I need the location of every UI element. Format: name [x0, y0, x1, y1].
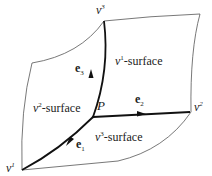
vertex-label-v2: v2 [194, 101, 203, 113]
basis-label-e2: e2 [135, 93, 144, 105]
vertex-label-v3: v3 [96, 4, 105, 16]
point-p-marker [92, 116, 94, 118]
surface-drawing [0, 0, 212, 176]
e2-arrow-icon [137, 111, 146, 117]
vertex-label-v1: v1 [6, 162, 15, 174]
v1-surface-top-edge [104, 14, 200, 21]
e3-arrow-icon [89, 69, 94, 78]
basis-label-e1: e1 [76, 138, 85, 150]
v2-surface-left-edge [22, 63, 32, 170]
v1-surface-right-edge [191, 14, 200, 112]
surface-label-v1: v1-surface [115, 55, 162, 67]
point-label-p: P [97, 99, 105, 112]
basis-label-e3: e3 [75, 62, 84, 74]
surface-label-v3: v3-surface [95, 131, 142, 143]
diagram-canvas: v3 v2 v1 v1-surface v2-surface v3-surfac… [0, 0, 212, 176]
surface-label-v2: v2-surface [33, 102, 80, 114]
v2-surface-top-edge [32, 21, 104, 63]
